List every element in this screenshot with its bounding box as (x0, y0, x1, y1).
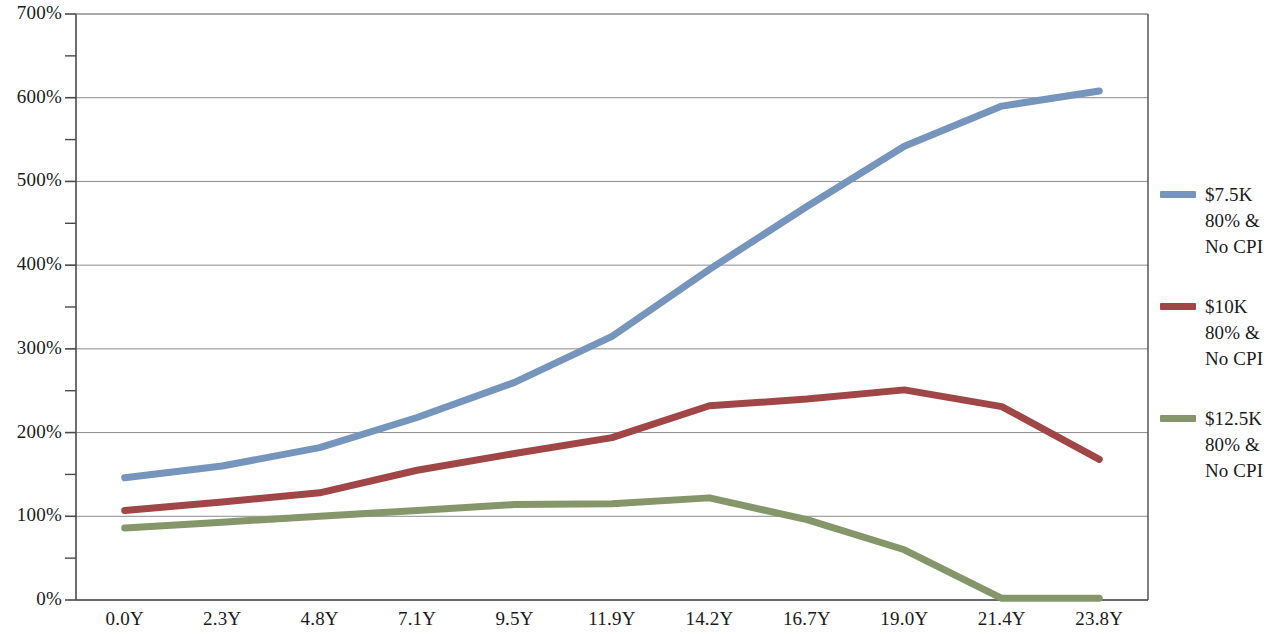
chart-plot-area (0, 0, 1279, 634)
x-axis-tick-label: 14.2Y (654, 608, 764, 630)
y-axis-tick-label: 300% (0, 337, 62, 359)
chart-container: 0%100%200%300%400%500%600%700% 0.0Y2.3Y4… (0, 0, 1279, 634)
x-axis-tick-label: 2.3Y (167, 608, 277, 630)
x-axis-tick-label: 4.8Y (265, 608, 375, 630)
y-axis-tick-label: 700% (0, 2, 62, 24)
series-line-2 (125, 498, 1100, 598)
x-axis-tick-label: 23.8Y (1044, 608, 1154, 630)
series-line-1 (125, 390, 1100, 511)
x-axis-tick-label: 11.9Y (557, 608, 667, 630)
plot-frame (76, 14, 1148, 600)
x-axis-tick-label: 0.0Y (70, 608, 180, 630)
legend-color-swatch-icon (1160, 191, 1196, 198)
gridlines (76, 14, 1148, 600)
legend-entry-0[interactable]: $7.5K 80% & No CPI (1160, 182, 1279, 260)
y-axis-tick-label: 400% (0, 253, 62, 275)
y-axis-tick-label: 0% (0, 588, 62, 610)
series-line-0 (125, 91, 1100, 478)
legend-color-swatch-icon (1160, 415, 1196, 422)
x-axis-tick-label: 19.0Y (849, 608, 959, 630)
x-axis-tick-label: 21.4Y (947, 608, 1057, 630)
y-axis-tick-label: 500% (0, 169, 62, 191)
legend-label: $7.5K 80% & No CPI (1205, 182, 1263, 260)
chart-legend: $7.5K 80% & No CPI$10K 80% & No CPI$12.5… (1160, 182, 1279, 518)
y-axis-tick-label: 100% (0, 504, 62, 526)
x-axis-tick-label: 16.7Y (752, 608, 862, 630)
data-series-lines (125, 91, 1100, 598)
y-axis-minor-ticks (65, 56, 76, 558)
y-axis-tick-label: 200% (0, 421, 62, 443)
legend-label: $10K 80% & No CPI (1205, 294, 1263, 372)
legend-label: $12.5K 80% & No CPI (1205, 406, 1263, 484)
legend-entry-2[interactable]: $12.5K 80% & No CPI (1160, 406, 1279, 484)
legend-color-swatch-icon (1160, 303, 1196, 310)
y-axis-tick-label: 600% (0, 86, 62, 108)
x-axis-tick-label: 7.1Y (362, 608, 472, 630)
x-axis-tick-label: 9.5Y (460, 608, 570, 630)
legend-entry-1[interactable]: $10K 80% & No CPI (1160, 294, 1279, 372)
